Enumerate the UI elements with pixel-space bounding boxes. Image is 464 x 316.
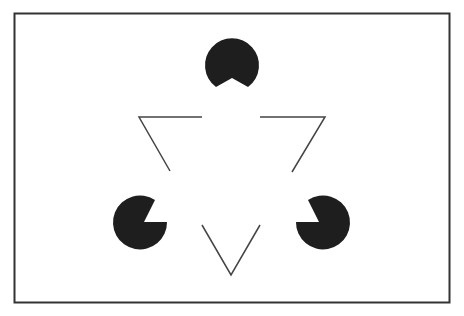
pacman-top: [205, 38, 259, 87]
pacman-bottom-left: [113, 195, 167, 249]
kanizsa-diagram: [0, 0, 464, 316]
outline-top-left: [139, 117, 202, 171]
pacman-bottom-right: [296, 195, 350, 249]
outline-top-right: [260, 117, 325, 172]
outline-bottom: [202, 225, 260, 275]
